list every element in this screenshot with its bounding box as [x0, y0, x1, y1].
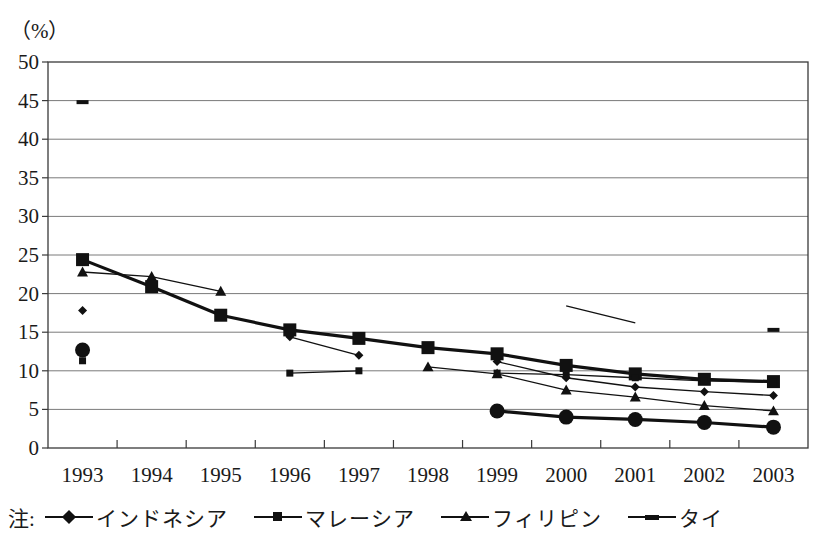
data-point-1999 — [490, 403, 505, 418]
data-point-1995 — [214, 309, 227, 322]
series-フィリピン — [77, 266, 779, 415]
legend-item-philippines[interactable]: フィリピン — [441, 502, 602, 532]
x-axis-tick-2002: 2002 — [683, 463, 725, 487]
data-point-1998 — [423, 361, 434, 371]
series-line-segment — [566, 417, 635, 419]
series-line-segment — [497, 411, 566, 417]
data-point-2001 — [632, 374, 639, 381]
data-point-1997 — [352, 332, 365, 345]
series-line-segment — [497, 373, 566, 375]
series-line-segment — [635, 419, 704, 422]
y-axis-tick-50: 50 — [18, 50, 39, 74]
series-line-segment — [704, 423, 773, 428]
series-line-segment — [566, 306, 635, 323]
series-line-segment — [290, 337, 359, 356]
x-axis-tick-2000: 2000 — [545, 463, 587, 487]
data-point-2000 — [559, 410, 574, 425]
data-point-2003 — [770, 379, 777, 386]
data-point-1993 — [75, 342, 90, 357]
data-point-2002 — [700, 387, 709, 396]
series-line-segment — [566, 375, 635, 378]
series-line-segment — [635, 387, 704, 392]
y-axis-tick-0: 0 — [29, 436, 40, 460]
data-point-2001 — [628, 412, 643, 427]
series-line-segment — [566, 378, 635, 387]
series-line-segment — [566, 365, 635, 373]
y-axis-tick-30: 30 — [18, 204, 39, 228]
chart-svg: 0510152025303540455019931994199519961997… — [0, 0, 818, 536]
legend-item-malaysia[interactable]: マレーシア — [254, 502, 415, 532]
data-point-1996 — [283, 323, 296, 336]
chart-container: （%） 051015202530354045501993199419951996… — [0, 0, 818, 536]
data-point-1993 — [78, 306, 87, 315]
x-axis-tick-1999: 1999 — [476, 463, 518, 487]
legend-item-indonesia[interactable]: インドネシア — [45, 502, 228, 532]
series-line-segment — [290, 330, 359, 338]
series-line-segment — [704, 392, 773, 396]
y-axis-tick-40: 40 — [18, 127, 39, 151]
data-point-1994 — [145, 280, 158, 293]
legend-label-malaysia: マレーシア — [305, 502, 415, 532]
data-point-1993 — [77, 266, 88, 276]
series-line-segment — [428, 348, 497, 354]
series-line-segment — [152, 287, 221, 316]
data-point-1998 — [422, 341, 435, 354]
x-axis-tick-1995: 1995 — [200, 463, 242, 487]
data-point-1999 — [494, 370, 501, 377]
diamond-marker-icon — [45, 508, 93, 526]
data-point-2003 — [766, 420, 781, 435]
x-axis-tick-1998: 1998 — [407, 463, 449, 487]
plot-area: 0510152025303540455019931994199519961997… — [0, 0, 818, 536]
y-axis-tick-35: 35 — [18, 166, 39, 190]
legend-label-philippines: フィリピン — [492, 502, 602, 532]
data-point-1993 — [76, 253, 89, 266]
y-axis-tick-20: 20 — [18, 282, 39, 306]
y-axis-tick-45: 45 — [18, 89, 39, 113]
data-point-2003 — [767, 328, 779, 332]
y-axis-tick-5: 5 — [29, 397, 40, 421]
x-axis-tick-2003: 2003 — [752, 463, 794, 487]
data-point-1996 — [286, 370, 293, 377]
data-point-1999 — [491, 347, 504, 360]
triangle-marker-icon — [441, 508, 489, 526]
series-line-segment — [221, 315, 290, 330]
series-line-segment — [152, 277, 221, 292]
x-axis-tick-2001: 2001 — [614, 463, 656, 487]
series-line-segment — [359, 338, 428, 347]
series-line-segment — [635, 397, 704, 405]
y-axis-tick-10: 10 — [18, 359, 39, 383]
legend-note-prefix: 注: — [8, 502, 35, 532]
series-line-segment — [566, 390, 635, 397]
data-point-2002 — [701, 377, 708, 384]
data-point-2002 — [697, 415, 712, 430]
series-line-segment — [497, 374, 566, 390]
legend-label-thailand: タイ — [679, 502, 723, 532]
x-axis-tick-1994: 1994 — [131, 463, 174, 487]
series-line-segment — [704, 406, 773, 411]
y-axis-tick-15: 15 — [18, 320, 39, 344]
data-point-2001 — [631, 383, 640, 392]
data-point-1997 — [354, 351, 363, 360]
square-marker-icon — [254, 508, 302, 526]
y-axis-tick-25: 25 — [18, 243, 39, 267]
legend-label-indonesia: インドネシア — [96, 502, 228, 532]
series-series-circle — [75, 342, 781, 434]
data-point-1993 — [79, 357, 86, 364]
chart-legend: 注: インドネシア マレーシア フィリピン タイ — [8, 500, 818, 534]
x-axis-tick-1996: 1996 — [269, 463, 311, 487]
data-point-1993 — [77, 100, 89, 104]
data-point-2000 — [560, 359, 573, 372]
data-point-2000 — [563, 371, 570, 378]
x-axis-tick-1993: 1993 — [62, 463, 104, 487]
legend-item-thailand[interactable]: タイ — [628, 502, 723, 532]
dash-marker-icon — [628, 508, 676, 526]
data-point-1997 — [355, 367, 362, 374]
x-axis-tick-1997: 1997 — [338, 463, 380, 487]
data-point-2003 — [769, 391, 778, 400]
